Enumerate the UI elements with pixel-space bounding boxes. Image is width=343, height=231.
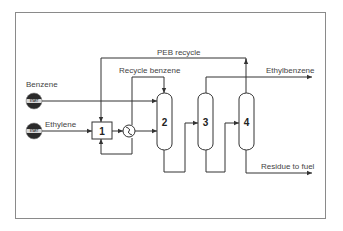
residue-label: Residue to fuel [261,162,315,171]
process-flow-diagram: Benzene Ethylene PEB recycle Recycle ben… [0,0,343,231]
benzene-feed-label: Benzene [26,80,58,89]
column-3[interactable]: 3 [198,93,213,150]
svg-text:2: 2 [162,117,168,128]
svg-text:1: 1 [99,126,105,137]
svg-text:3: 3 [203,117,209,128]
reactor-unit-1[interactable]: 1 [92,122,112,139]
svg-text:START: START [30,129,39,133]
heat-exchanger-icon[interactable] [123,125,135,137]
benzene-start-button-icon[interactable]: START [25,93,43,109]
ethylbenzene-label: Ethylbenzene [266,66,315,75]
ethylbenzene-product-line [206,77,312,93]
reactor-loop-line [101,138,132,154]
peb-recycle-label: PEB recycle [157,48,201,57]
ethylene-start-button-icon[interactable]: START [25,123,43,139]
recycle-benzene-label: Recycle benzene [119,66,181,75]
column-4[interactable]: 4 [239,93,254,150]
column-2[interactable]: 2 [157,93,172,150]
svg-text:4: 4 [244,117,250,128]
ethylene-feed-label: Ethylene [45,120,77,129]
svg-text:START: START [30,99,39,103]
